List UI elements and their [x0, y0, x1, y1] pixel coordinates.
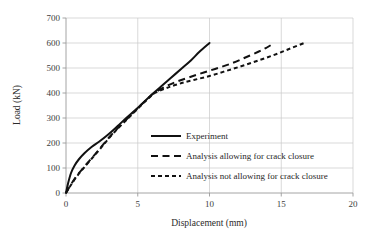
y-tick-label: 600 — [47, 38, 61, 48]
x-tick-label: 10 — [205, 199, 215, 209]
x-tick-label: 20 — [349, 199, 359, 209]
x-tick-label: 5 — [136, 199, 141, 209]
y-tick-label: 0 — [56, 188, 61, 198]
y-axis-title: Load (kN) — [12, 85, 23, 125]
x-axis-tick-labels: 05101520 — [64, 199, 358, 209]
x-tick-label: 0 — [64, 199, 69, 209]
legend-label: Analysis not allowing for crack closure — [186, 171, 328, 181]
y-tick-label: 400 — [47, 88, 61, 98]
chart-figure: 0100200300400500600700 05101520 Experime… — [0, 0, 375, 236]
x-tick-label: 15 — [277, 199, 287, 209]
load-displacement-chart: 0100200300400500600700 05101520 Experime… — [0, 0, 375, 236]
y-tick-label: 700 — [47, 13, 61, 23]
y-tick-label: 300 — [47, 113, 61, 123]
y-tick-label: 100 — [47, 163, 61, 173]
y-tick-label: 500 — [47, 63, 61, 73]
legend-label: Analysis allowing for crack closure — [186, 151, 314, 161]
y-axis-tick-labels: 0100200300400500600700 — [47, 13, 61, 198]
chart-legend: ExperimentAnalysis allowing for crack cl… — [151, 131, 328, 181]
y-tick-label: 200 — [47, 138, 61, 148]
legend-label: Experiment — [186, 131, 228, 141]
x-axis-title: Displacement (mm) — [171, 218, 247, 229]
